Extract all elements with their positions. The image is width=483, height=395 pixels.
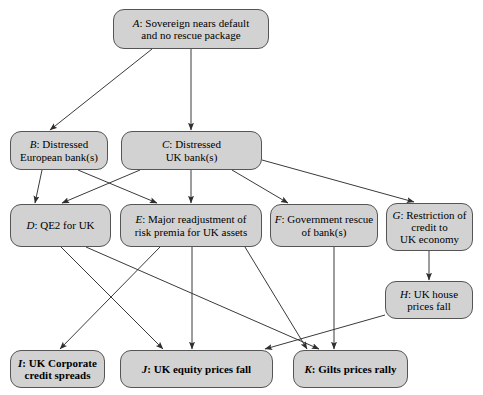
node-h-key: H [400, 288, 408, 300]
node-e-key: E [136, 213, 143, 225]
node-j-key: J [142, 363, 148, 375]
edge-d-to-j [61, 247, 163, 349]
edge-e-to-k [245, 247, 307, 349]
node-i-key: I [18, 357, 22, 369]
edge-a-to-b [50, 49, 152, 130]
node-a[interactable]: A: Sovereign nears defaultand no rescue … [113, 9, 269, 49]
edge-c-to-f [232, 170, 288, 203]
edge-c-to-g [262, 160, 414, 202]
node-j-label: J: UK equity prices fall [124, 363, 269, 375]
node-f-key: F [275, 213, 282, 225]
node-g-key: G [393, 209, 401, 221]
node-c-key: C [162, 138, 169, 150]
edges [35, 49, 429, 349]
edge-b-to-e [78, 170, 157, 203]
node-c[interactable]: C: DistressedUK bank(s) [121, 131, 262, 170]
node-g[interactable]: G: Restriction ofcredit toUK economy [386, 203, 473, 251]
edge-b-to-d [35, 170, 42, 203]
node-b-key: B [30, 138, 37, 150]
diagram-canvas: A: Sovereign nears defaultand no rescue … [0, 0, 483, 395]
node-h[interactable]: H: UK houseprices fall [385, 281, 473, 319]
node-a-key: A [133, 17, 140, 29]
node-i[interactable]: I: UK Corporatecredit spreads [10, 350, 105, 388]
node-d-label: D: QE2 for UK [14, 219, 107, 231]
node-k-key: K [305, 363, 312, 375]
edge-d-to-k [86, 247, 319, 349]
edge-c-to-d [62, 170, 140, 203]
node-f[interactable]: F: Government rescueof bank(s) [270, 204, 378, 247]
node-d[interactable]: D: QE2 for UK [10, 204, 111, 247]
node-i-label: I: UK Corporatecredit spreads [14, 357, 101, 382]
node-e[interactable]: E: Major readjustment ofrisk premia for … [120, 204, 262, 247]
edge-e-to-i [60, 247, 160, 349]
node-k-label: K: Gilts prices rally [297, 363, 404, 375]
node-f-label: F: Government rescueof bank(s) [274, 213, 374, 238]
edge-layer [0, 0, 483, 395]
node-h-label: H: UK houseprices fall [389, 288, 469, 313]
node-j[interactable]: J: UK equity prices fall [120, 350, 273, 388]
node-e-label: E: Major readjustment ofrisk premia for … [124, 213, 258, 238]
node-a-label: A: Sovereign nears defaultand no rescue … [117, 17, 265, 42]
node-b-label: B: DistressedEuropean bank(s) [14, 138, 104, 163]
node-k[interactable]: K: Gilts prices rally [293, 350, 408, 388]
node-g-label: G: Restriction ofcredit toUK economy [390, 209, 469, 246]
node-c-label: C: DistressedUK bank(s) [125, 138, 258, 163]
node-d-key: D [26, 219, 34, 231]
edge-h-to-j [265, 315, 385, 349]
node-b[interactable]: B: DistressedEuropean bank(s) [10, 131, 108, 170]
